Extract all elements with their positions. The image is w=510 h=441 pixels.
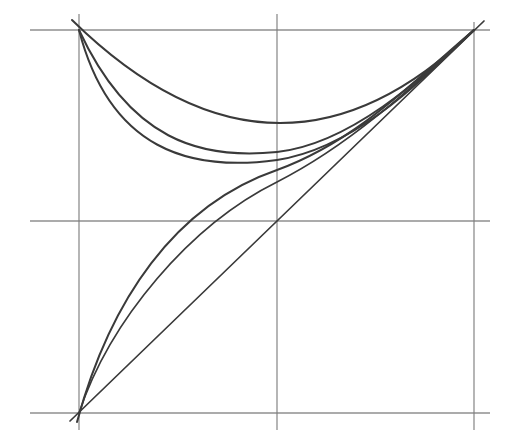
curve-diagram [0, 0, 510, 441]
